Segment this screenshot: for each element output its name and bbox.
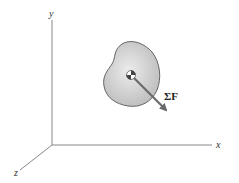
y-axis-label: y	[49, 9, 53, 19]
x-axis-label: x	[216, 140, 220, 150]
force-label: ΣF	[164, 91, 178, 102]
z-axis-label: z	[14, 168, 18, 178]
diagram-canvas	[0, 0, 239, 183]
center-of-mass-icon	[127, 71, 136, 80]
z-axis	[20, 145, 52, 170]
